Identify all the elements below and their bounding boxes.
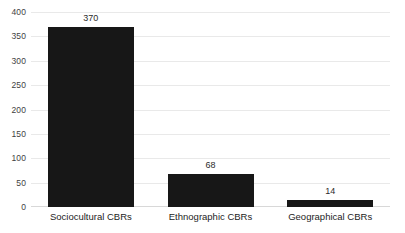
y-axis-tick-label: 400 — [0, 8, 26, 17]
x-axis-category-label: Geographical CBRs — [270, 212, 390, 222]
bar[interactable] — [48, 27, 134, 207]
y-axis-tick-label: 150 — [0, 130, 26, 139]
bar[interactable] — [287, 200, 373, 207]
y-axis-tick-label: 100 — [0, 154, 26, 163]
x-axis-category-label: Sociocultural CBRs — [31, 212, 151, 222]
y-axis-tick-label: 50 — [0, 178, 26, 187]
plot-area: 3706814 — [31, 12, 390, 207]
bar-value-label: 68 — [168, 161, 254, 170]
bar[interactable] — [168, 174, 254, 207]
y-axis-tick-label: 250 — [0, 81, 26, 90]
bar-chart: 050100150200250300350400 3706814 Sociocu… — [0, 0, 405, 233]
bar-value-label: 370 — [48, 14, 134, 23]
x-axis-category-label: Ethnographic CBRs — [151, 212, 271, 222]
bar-value-label: 14 — [287, 187, 373, 196]
y-axis-tick-label: 200 — [0, 105, 26, 114]
y-axis-tick-label: 0 — [0, 203, 26, 212]
y-axis-tick-label: 350 — [0, 32, 26, 41]
y-axis-tick-label: 300 — [0, 57, 26, 66]
